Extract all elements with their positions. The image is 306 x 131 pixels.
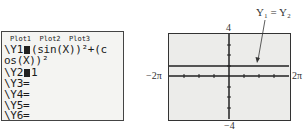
annotation-label: Y₁ = Y₂ [256, 6, 291, 18]
xmax-label: 2π [292, 70, 302, 81]
ymin-label: −4 [224, 120, 235, 131]
ymax-label: 4 [226, 22, 231, 33]
xmin-label: −2π [146, 70, 162, 81]
graph-overlay [0, 0, 306, 131]
